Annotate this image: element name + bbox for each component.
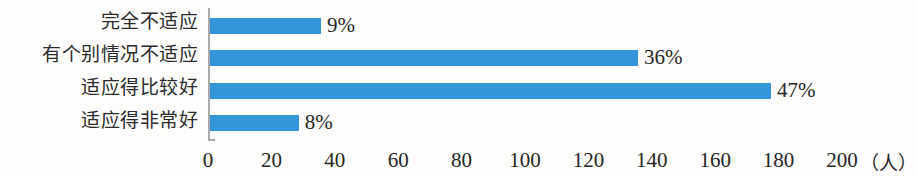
category-label-2: 适应得比较好 <box>81 74 198 100</box>
plot-area: 9% 36% 47% 8% <box>208 0 917 145</box>
bar-row-1: 36% <box>210 50 638 66</box>
x-axis-tick-labels: 020406080100120140160180200（人） <box>208 148 917 178</box>
bar-3 <box>210 115 299 131</box>
x-tick-label-0: 0 <box>203 148 214 173</box>
x-tick-label-100: 100 <box>509 148 541 173</box>
x-tick-label-80: 80 <box>451 148 472 173</box>
x-axis-origin-tick <box>208 139 215 141</box>
bar-0 <box>210 18 321 34</box>
category-label-3: 适应得非常好 <box>81 107 198 133</box>
x-tick-label-160: 160 <box>699 148 731 173</box>
bar-value-label-3: 8% <box>305 110 333 135</box>
category-axis-labels: 完全不适应 有个别情况不适应 适应得比较好 适应得非常好 <box>0 0 202 145</box>
bar-row-2: 47% <box>210 83 771 99</box>
bar-1 <box>210 50 638 66</box>
bar-row-0: 9% <box>210 18 321 34</box>
bar-value-label-1: 36% <box>644 45 683 70</box>
x-tick-label-40: 40 <box>324 148 345 173</box>
x-axis-unit-label: （人） <box>860 148 917 175</box>
x-tick-label-120: 120 <box>573 148 605 173</box>
category-label-0: 完全不适应 <box>101 8 199 34</box>
x-tick-label-180: 180 <box>763 148 795 173</box>
bar-row-3: 8% <box>210 115 299 131</box>
bar-value-label-0: 9% <box>327 13 355 38</box>
horizontal-bar-chart: 完全不适应 有个别情况不适应 适应得比较好 适应得非常好 9% 36% 47% … <box>0 0 917 178</box>
category-label-1: 有个别情况不适应 <box>42 41 198 67</box>
x-tick-label-20: 20 <box>261 148 282 173</box>
bar-value-label-2: 47% <box>777 78 816 103</box>
x-tick-label-200: 200 <box>826 148 858 173</box>
x-tick-label-140: 140 <box>636 148 668 173</box>
x-tick-label-60: 60 <box>388 148 409 173</box>
bar-2 <box>210 83 771 99</box>
